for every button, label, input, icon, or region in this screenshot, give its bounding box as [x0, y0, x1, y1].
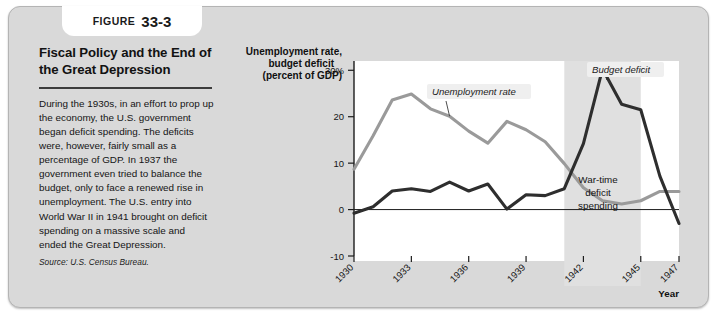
wartime-label-line2: deficit — [585, 187, 611, 198]
x-tick-label-1933: 1933 — [390, 262, 413, 285]
x-tick-label-1930: 1930 — [333, 262, 356, 285]
figure-badge-number: 33-3 — [141, 13, 171, 30]
figure-title: Fiscal Policy and the End of the Great D… — [39, 45, 214, 78]
x-tick-label-1939: 1939 — [505, 262, 528, 285]
y-tick-label-0: 0 — [339, 204, 344, 215]
wartime-label-line3: spending — [578, 200, 618, 211]
y-tick-label-20: 20 — [333, 111, 344, 122]
title-divider — [39, 87, 212, 89]
figure-badge-word: FIGURE — [93, 15, 136, 27]
series-label-budget-deficit: Budget deficit — [592, 64, 650, 75]
line-chart: Unemployment rate, budget deficit (perce… — [224, 31, 704, 306]
y-tick-label--10: -10 — [330, 251, 344, 262]
x-axis-title: Year — [658, 288, 679, 299]
figure-source: Source: U.S. Census Bureau. — [39, 257, 214, 267]
figure-card: FIGURE 33-3 Fiscal Policy and the End of… — [8, 6, 709, 308]
y-axis-ticks: 30%20100-10 — [325, 65, 354, 262]
figure-badge: FIGURE 33-3 — [62, 6, 202, 36]
figure-text-panel: Fiscal Policy and the End of the Great D… — [39, 45, 214, 267]
series-label-unemployment-rate: Unemployment rate — [432, 86, 516, 97]
wartime-label-line1: War-time — [578, 174, 618, 185]
y-tick-label-10: 10 — [333, 158, 344, 169]
chart-container: Unemployment rate, budget deficit (perce… — [224, 31, 704, 306]
y-tick-label-30%: 30% — [325, 65, 345, 76]
x-tick-label-1936: 1936 — [447, 262, 470, 285]
y-axis-title-line1: Unemployment rate, — [246, 46, 342, 57]
figure-body-text: During the 1930s, in an effort to prop u… — [39, 97, 214, 252]
x-tick-label-1947: 1947 — [658, 262, 681, 285]
